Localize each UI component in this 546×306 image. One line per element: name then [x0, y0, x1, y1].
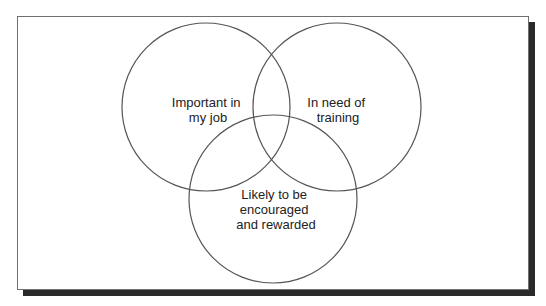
label-important: Important in my job	[172, 95, 244, 125]
venn-diagram: Important in my job In need of training …	[0, 0, 546, 306]
label-rewarded: Likely to be encouraged and rewarded	[236, 187, 316, 232]
label-training: In need of training	[307, 95, 368, 125]
